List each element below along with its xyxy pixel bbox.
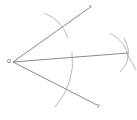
vertex-label-o: O <box>7 59 11 64</box>
diagram-canvas: O x y <box>0 0 137 120</box>
bisector-ray <box>13 53 128 62</box>
ray-oy <box>13 62 97 105</box>
ray-label-x: x <box>89 4 92 9</box>
ray-label-y: y <box>97 103 100 108</box>
construction-figure <box>0 0 137 120</box>
arc-on-oy <box>55 52 73 107</box>
arc-from-ox-point <box>110 33 128 72</box>
arc-from-oy-point <box>124 38 136 70</box>
